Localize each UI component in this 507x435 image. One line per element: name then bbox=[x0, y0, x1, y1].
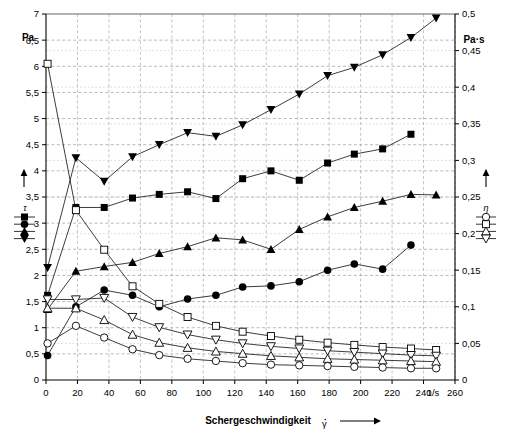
data-point-marker bbox=[296, 362, 303, 369]
data-point-marker bbox=[351, 151, 358, 158]
data-point-marker bbox=[407, 365, 414, 372]
data-point-marker bbox=[296, 336, 303, 343]
tick-label-left: 5 bbox=[34, 113, 39, 124]
tick-label-bottom: 20 bbox=[72, 387, 83, 398]
legend-entry-eta-triangle-up-open[interactable] bbox=[476, 227, 496, 235]
data-point-marker bbox=[407, 241, 415, 249]
data-point-marker bbox=[101, 246, 108, 253]
chart-canvas: 00,511,522,533,544,555,566,57Pa00,050,10… bbox=[0, 0, 507, 435]
data-point-marker bbox=[21, 214, 28, 221]
tick-label-left: 0,5 bbox=[26, 348, 39, 359]
data-point-marker bbox=[239, 328, 246, 335]
data-point-marker bbox=[44, 340, 51, 347]
legend-symbol-eta: η bbox=[484, 203, 489, 213]
data-point-marker bbox=[72, 207, 79, 214]
tick-label-left: 0 bbox=[34, 374, 39, 385]
tick-label-bottom: 100 bbox=[195, 387, 211, 398]
data-point-marker bbox=[351, 363, 358, 370]
tick-label-bottom: 80 bbox=[167, 387, 178, 398]
tick-label-left: 2,5 bbox=[26, 244, 39, 255]
tick-label-left: 6 bbox=[34, 61, 39, 72]
tick-label-right: 0,2 bbox=[462, 228, 475, 239]
data-point-marker bbox=[379, 364, 386, 371]
data-point-marker bbox=[21, 220, 29, 228]
data-point-marker bbox=[156, 351, 163, 358]
right-axis-unit: Pa·s bbox=[463, 34, 485, 45]
data-point-marker bbox=[72, 322, 79, 329]
tick-label-left: 4 bbox=[34, 165, 39, 176]
data-point-marker bbox=[267, 282, 275, 290]
data-point-marker bbox=[129, 283, 136, 290]
data-point-marker bbox=[184, 314, 191, 321]
legend-entry-eta-triangle-down-open[interactable] bbox=[476, 235, 496, 243]
data-point-marker bbox=[184, 355, 191, 362]
data-point-marker bbox=[212, 322, 219, 329]
data-point-marker bbox=[239, 359, 246, 366]
tick-label-bottom: 0 bbox=[43, 387, 48, 398]
data-point-marker bbox=[239, 175, 246, 182]
data-point-marker bbox=[101, 204, 108, 211]
rheology-chart: 00,511,522,533,544,555,566,57Pa00,050,10… bbox=[0, 0, 507, 435]
tick-label-right: 0,35 bbox=[462, 118, 481, 129]
x-axis-arrow-head-icon bbox=[374, 418, 381, 425]
data-point-marker bbox=[407, 131, 414, 138]
x-axis-title: Schergeschwindigkeit bbox=[205, 415, 311, 426]
tick-label-left: 1,5 bbox=[26, 296, 39, 307]
right-axis-arrow-head-icon bbox=[483, 169, 490, 176]
tick-label-left: 4,5 bbox=[26, 139, 39, 150]
tick-label-bottom: 60 bbox=[135, 387, 146, 398]
data-point-marker bbox=[324, 339, 331, 346]
tick-label-right: 0,25 bbox=[462, 191, 481, 202]
data-point-marker bbox=[212, 291, 220, 299]
data-point-marker bbox=[129, 291, 137, 299]
tick-label-right: 0,45 bbox=[462, 45, 481, 56]
data-point-marker bbox=[184, 188, 191, 195]
data-point-marker bbox=[156, 300, 163, 307]
tick-label-bottom: 180 bbox=[321, 387, 337, 398]
data-point-marker bbox=[351, 341, 358, 348]
legend-entry-tau-circle-filled[interactable] bbox=[14, 220, 35, 228]
tick-label-left: 5,5 bbox=[26, 87, 39, 98]
legend-entry-tau-square-filled[interactable] bbox=[14, 214, 35, 221]
tick-label-bottom: 160 bbox=[290, 387, 306, 398]
data-point-marker bbox=[44, 352, 52, 360]
data-point-marker bbox=[432, 365, 439, 372]
data-point-marker bbox=[184, 295, 192, 303]
tick-label-right: 0,4 bbox=[462, 82, 475, 93]
data-point-marker bbox=[212, 357, 219, 364]
data-point-marker bbox=[296, 177, 303, 184]
legend-symbol-tau: τ bbox=[23, 203, 27, 213]
data-point-marker bbox=[324, 266, 332, 274]
x-axis-unit: 1/s bbox=[427, 387, 440, 398]
tick-label-left: 1 bbox=[34, 322, 39, 333]
legend-entry-tau-triangle-up-filled[interactable] bbox=[14, 227, 35, 235]
tick-label-right: 0,15 bbox=[462, 265, 481, 276]
data-point-marker bbox=[324, 362, 331, 369]
data-point-marker bbox=[100, 286, 108, 294]
left-axis-unit: Pa bbox=[22, 32, 35, 43]
tick-label-bottom: 260 bbox=[447, 387, 463, 398]
data-point-marker bbox=[295, 278, 303, 286]
data-point-marker bbox=[44, 60, 51, 67]
tick-label-right: 0,1 bbox=[462, 301, 475, 312]
tick-label-right: 0 bbox=[462, 374, 467, 385]
legend-entry-tau-triangle-down-filled[interactable] bbox=[14, 235, 35, 243]
data-point-marker bbox=[101, 334, 108, 341]
data-point-marker bbox=[267, 167, 274, 174]
data-point-marker bbox=[267, 361, 274, 368]
tick-label-bottom: 140 bbox=[258, 387, 274, 398]
legend-entry-eta-circle-open[interactable] bbox=[476, 213, 496, 220]
tick-label-right: 0,05 bbox=[462, 338, 481, 349]
tick-label-left: 7 bbox=[34, 8, 39, 19]
tick-label-bottom: 120 bbox=[227, 387, 243, 398]
tick-label-left: 3,5 bbox=[26, 191, 39, 202]
tick-label-right: 0,3 bbox=[462, 155, 475, 166]
data-point-marker bbox=[156, 191, 163, 198]
data-point-marker bbox=[379, 145, 386, 152]
data-point-marker bbox=[379, 265, 387, 273]
gamma-dot-icon bbox=[324, 419, 326, 421]
data-point-marker bbox=[379, 344, 386, 351]
data-point-marker bbox=[407, 345, 414, 352]
data-point-marker bbox=[239, 283, 247, 291]
data-point-marker bbox=[482, 213, 489, 220]
